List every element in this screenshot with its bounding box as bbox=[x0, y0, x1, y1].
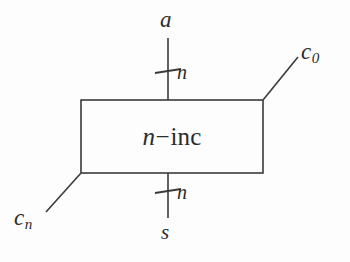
block-label-suffix: inc bbox=[170, 123, 201, 151]
port-label-cn-base: c bbox=[14, 205, 24, 230]
block-label-base: n bbox=[142, 123, 155, 151]
port-label-a: a bbox=[160, 8, 172, 31]
port-label-c0-subscript: 0 bbox=[312, 49, 320, 66]
bus-width-label-top: n bbox=[177, 62, 187, 82]
block-diagram-canvas: n−inc a n n s c0 cn bbox=[0, 0, 350, 262]
wire-cn bbox=[46, 173, 81, 212]
bus-width-label-bottom: n bbox=[177, 182, 187, 202]
port-label-c0: c0 bbox=[301, 40, 319, 65]
block-label: n−inc bbox=[81, 100, 263, 173]
port-label-c0-base: c bbox=[301, 39, 311, 64]
wire-c0 bbox=[263, 57, 298, 100]
port-label-s: s bbox=[161, 222, 169, 243]
block-label-operator: − bbox=[156, 123, 170, 151]
port-label-cn: cn bbox=[14, 206, 32, 231]
port-label-cn-subscript: n bbox=[25, 215, 33, 232]
